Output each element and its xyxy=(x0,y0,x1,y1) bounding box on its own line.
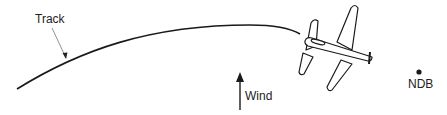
track-label: Track xyxy=(35,12,65,26)
track-pointer-arrow xyxy=(52,28,68,59)
airplane-icon xyxy=(299,6,372,91)
ndb-beacon-dot xyxy=(416,69,421,74)
track-wind-diagram: Track Wind NDB xyxy=(0,0,447,115)
ndb-label: NDB xyxy=(408,77,433,91)
wind-arrow-icon xyxy=(236,72,244,110)
wind-label: Wind xyxy=(245,89,272,103)
track-curve xyxy=(17,25,300,89)
diagram-canvas xyxy=(0,0,447,115)
